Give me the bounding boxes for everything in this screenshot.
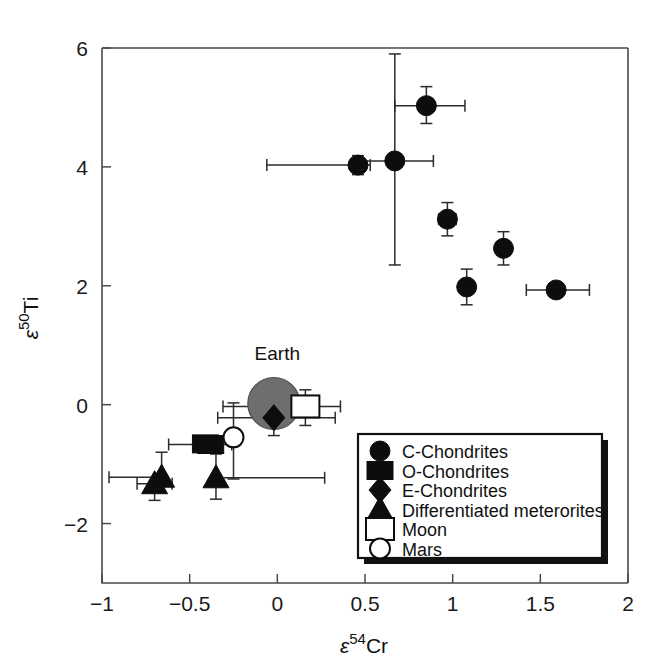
- x-axis-superscript: 54: [349, 630, 366, 647]
- marker-circle: [348, 155, 368, 175]
- legend-item-differentiated-meterorites[interactable]: Differentiated meterorites: [367, 497, 604, 521]
- marker-circle: [457, 277, 477, 297]
- series-moon: [291, 395, 319, 417]
- legend-label: Moon: [402, 520, 447, 540]
- y-axis-superscript: 50: [15, 313, 32, 330]
- y-tick-label: 6: [76, 37, 88, 60]
- legend-label: O-Chondrites: [402, 462, 509, 482]
- y-axis-title: ε50Ti: [15, 297, 42, 340]
- x-tick-label: 2: [622, 592, 634, 615]
- legend-label: Mars: [402, 540, 442, 560]
- marker-square-open: [291, 395, 319, 417]
- svg-text:ε50Ti: ε50Ti: [15, 297, 42, 340]
- marker-circle: [494, 238, 514, 258]
- x-tick-label: −1: [90, 592, 114, 615]
- legend-item-mars[interactable]: Mars: [370, 539, 442, 560]
- annotation-earth-label: Earth: [255, 343, 300, 364]
- legend-item-moon[interactable]: Moon: [366, 518, 447, 540]
- series-mars: [224, 427, 244, 447]
- marker-circle: [416, 96, 436, 116]
- legend-label: C-Chondrites: [402, 442, 508, 462]
- x-axis-element: Cr: [366, 634, 388, 657]
- x-axis-title: ε54Cr: [340, 630, 388, 657]
- y-tick-label: 0: [76, 394, 88, 417]
- y-tick-label: 2: [76, 275, 88, 298]
- y-tick-label: 4: [76, 156, 88, 179]
- svg-text:ε54Cr: ε54Cr: [340, 630, 388, 657]
- marker-circle-open: [224, 427, 244, 447]
- marker-circle: [385, 151, 405, 171]
- x-tick-label: −0.5: [169, 592, 210, 615]
- x-tick-label: 0.5: [350, 592, 379, 615]
- y-tick-label: −2: [64, 513, 88, 536]
- marker-circle: [437, 209, 457, 229]
- marker-square: [192, 435, 218, 453]
- marker-circle: [370, 441, 390, 461]
- series-c-chondrites: [348, 96, 566, 300]
- scatter-plot-figure: −1−0.500.511.526420−2 Earth C-Chondrites…: [0, 0, 658, 670]
- annotations: Earth: [255, 343, 300, 364]
- x-tick-label: 0: [271, 592, 283, 615]
- legend-label: E-Chondrites: [402, 481, 507, 501]
- legend-item-o-chondrites[interactable]: O-Chondrites: [367, 462, 509, 482]
- marker-circle-open: [370, 539, 390, 559]
- series-o-chondrites: [192, 435, 223, 454]
- x-tick-label: 1.5: [526, 592, 555, 615]
- marker-square-open: [366, 518, 394, 540]
- y-axis-element: Ti: [19, 297, 42, 314]
- legend-label: Differentiated meterorites: [402, 501, 604, 521]
- marker-triangle: [203, 465, 229, 488]
- marker-circle: [546, 280, 566, 300]
- x-tick-label: 1: [447, 592, 459, 615]
- legend: C-ChondritesO-ChondritesE-ChondritesDiff…: [358, 434, 608, 564]
- plot-svg: −1−0.500.511.526420−2 Earth C-Chondrites…: [0, 0, 658, 670]
- x-error-bar: [216, 472, 325, 484]
